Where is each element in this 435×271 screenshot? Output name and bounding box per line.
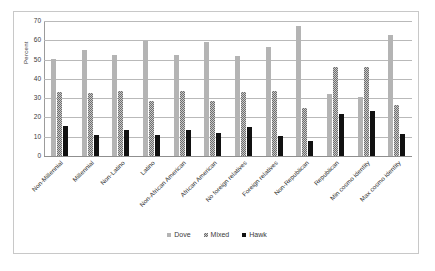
bar-dove <box>235 56 240 156</box>
bar-mixed <box>333 67 338 156</box>
bar-dove <box>82 50 87 156</box>
bar-hawk <box>94 135 99 156</box>
bar-hawk <box>124 130 129 156</box>
bar-hawk <box>370 111 375 156</box>
x-axis-tick-label: Non-Latino <box>99 159 126 186</box>
bar-group <box>136 21 167 156</box>
x-axis-tick-label: Republican <box>313 159 341 187</box>
bar-dove <box>143 41 148 156</box>
bar-dove <box>327 94 332 156</box>
plot-area: 010203040506070 <box>44 21 412 156</box>
x-axis-tick-label: Millennial <box>71 159 95 183</box>
chart-container: Percent 010203040506070 Non-MillennialMi… <box>13 11 419 254</box>
bar-mixed <box>272 91 277 156</box>
bar-dove <box>204 42 209 156</box>
bar-mixed <box>57 92 62 156</box>
bar-dove <box>266 47 271 156</box>
bar-dove <box>358 97 363 156</box>
legend-swatch-icon <box>242 233 246 237</box>
legend-swatch-icon <box>204 233 208 237</box>
x-axis-tick-label: Non-Millennial <box>31 159 65 193</box>
legend-swatch-icon <box>167 233 171 237</box>
bar-dove <box>112 55 117 156</box>
y-axis-tick: 30 <box>34 95 41 102</box>
y-axis-tick: 10 <box>34 133 41 140</box>
y-axis-tick: 20 <box>34 114 41 121</box>
legend-label: Dove <box>174 231 190 238</box>
bar-hawk <box>308 141 313 156</box>
y-axis-tick: 70 <box>34 18 41 25</box>
bar-mixed <box>118 91 123 156</box>
gridline <box>44 156 412 157</box>
chart-legend: DoveMixedHawk <box>14 231 420 238</box>
bar-mixed <box>241 92 246 156</box>
bar-mixed <box>302 108 307 156</box>
bar-group <box>75 21 106 156</box>
bar-group <box>351 21 382 156</box>
bar-hawk <box>339 114 344 156</box>
y-axis-tick: 0 <box>37 153 41 160</box>
bar-group <box>320 21 351 156</box>
bar-groups <box>44 21 412 156</box>
y-axis-tick: 40 <box>34 76 41 83</box>
bar-group <box>228 21 259 156</box>
legend-item-hawk[interactable]: Hawk <box>242 231 267 238</box>
bar-group <box>259 21 290 156</box>
bar-hawk <box>247 127 252 156</box>
bar-hawk <box>216 133 221 156</box>
bar-dove <box>174 55 179 156</box>
y-axis-tick: 60 <box>34 37 41 44</box>
bar-mixed <box>210 101 215 156</box>
bar-mixed <box>394 105 399 156</box>
legend-label: Hawk <box>249 231 267 238</box>
bar-mixed <box>364 67 369 156</box>
plot-wrapper: Percent 010203040506070 Non-MillennialMi… <box>14 12 420 255</box>
bar-mixed <box>149 101 154 156</box>
bar-dove <box>388 35 393 156</box>
bar-group <box>44 21 75 156</box>
bar-hawk <box>400 134 405 156</box>
x-axis-tick-label: Latino <box>139 159 156 176</box>
legend-label: Mixed <box>211 231 230 238</box>
bar-group <box>381 21 412 156</box>
bar-dove <box>296 26 301 156</box>
bar-group <box>167 21 198 156</box>
bar-hawk <box>155 135 160 156</box>
bar-mixed <box>180 91 185 156</box>
bar-hawk <box>186 130 191 156</box>
bar-group <box>197 21 228 156</box>
bar-group <box>289 21 320 156</box>
bar-hawk <box>63 126 68 156</box>
bar-hawk <box>278 136 283 156</box>
bar-group <box>105 21 136 156</box>
y-axis-label: Percent <box>23 41 29 64</box>
legend-item-mixed[interactable]: Mixed <box>204 231 230 238</box>
bar-dove <box>51 59 56 156</box>
bar-mixed <box>88 93 93 156</box>
legend-item-dove[interactable]: Dove <box>167 231 190 238</box>
y-axis-tick: 50 <box>34 56 41 63</box>
